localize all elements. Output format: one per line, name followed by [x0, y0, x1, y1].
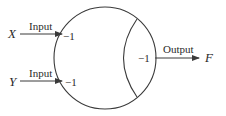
input-x-label: Input	[29, 20, 52, 32]
threshold-arc	[124, 19, 138, 97]
input-y-variable: Y	[9, 74, 18, 89]
input-x-weight: −1	[63, 30, 75, 42]
input-y-weight: −1	[65, 76, 77, 88]
neuron-diagram: X Input −1 Y Input −1 −1 Output F	[0, 0, 226, 116]
input-x-variable: X	[7, 26, 17, 41]
output-label: Output	[163, 43, 194, 55]
threshold-value: −1	[138, 52, 150, 64]
input-y-label: Input	[29, 67, 52, 79]
output-variable: F	[204, 50, 214, 65]
